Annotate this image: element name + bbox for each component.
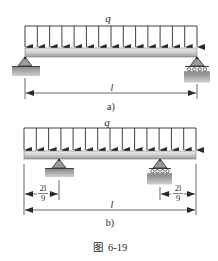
roller-support <box>184 57 210 83</box>
beam <box>24 151 196 159</box>
left-overhang-label: 2l 9 <box>38 183 48 203</box>
load-label-q: q <box>105 12 111 24</box>
beam-figure: q <box>0 0 218 261</box>
panel-label-a: a) <box>107 101 115 113</box>
pin-support <box>45 159 74 177</box>
span-label-l: l <box>111 82 114 93</box>
roller-support <box>147 159 172 185</box>
fraction-numerator: 2l <box>175 183 182 193</box>
pin-support <box>12 57 40 76</box>
right-overhang-label: 2l 9 <box>173 183 183 203</box>
beam <box>25 48 197 57</box>
panel-label-b: b) <box>106 217 114 229</box>
figure-caption: 图 6-19 <box>93 242 128 253</box>
fraction-denominator: 9 <box>176 193 180 203</box>
panel-b: q <box>24 116 196 229</box>
distributed-load <box>25 26 197 47</box>
span-label-l: l <box>111 199 114 210</box>
load-label-q: q <box>104 116 110 128</box>
fraction-numerator: 2l <box>40 183 47 193</box>
fraction-denominator: 9 <box>41 193 45 203</box>
distributed-load <box>24 128 196 150</box>
panel-a: q <box>12 12 210 113</box>
